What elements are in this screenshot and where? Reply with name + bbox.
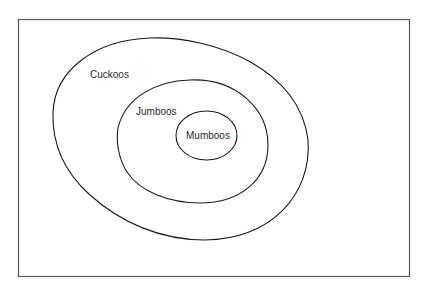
set-label-cuckoos: Cuckoos	[90, 70, 129, 80]
diagram-frame	[19, 20, 410, 277]
set-label-jumboos: Jumboos	[136, 107, 177, 117]
diagram-canvas: Cuckoos Jumboos Mumboos	[0, 0, 426, 295]
set-label-mumboos: Mumboos	[186, 131, 230, 141]
set-boundary-jumboos	[117, 80, 268, 203]
diagram-svg	[0, 0, 426, 295]
